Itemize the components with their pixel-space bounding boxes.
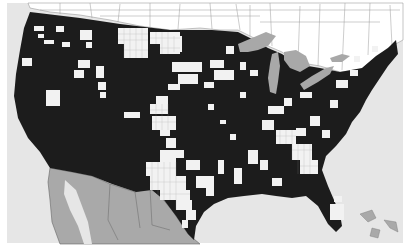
us-county-map <box>0 0 408 249</box>
map-figure <box>0 0 408 249</box>
